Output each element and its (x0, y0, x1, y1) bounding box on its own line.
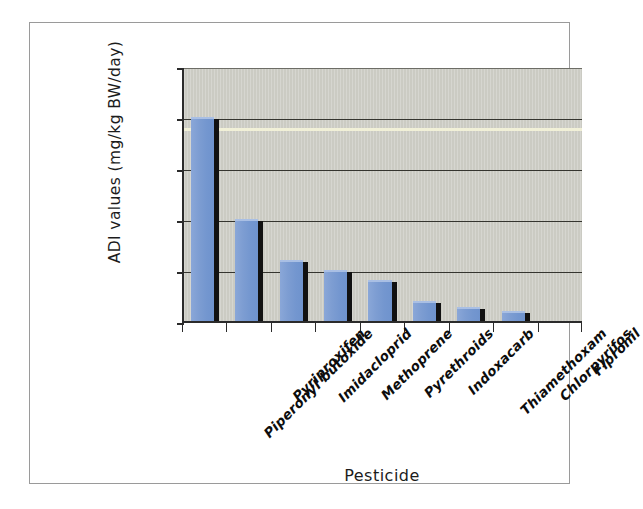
bar-group (235, 68, 258, 321)
y-axis-tick-mark (177, 221, 184, 223)
y-axis-tick-mark (177, 272, 184, 274)
bar-piperonyl-butoxide[interactable] (191, 117, 214, 321)
x-axis-category-label: Methoprene (378, 325, 456, 403)
bar-group (502, 68, 525, 321)
figure-frame: ADI values (mg/kg BW/day) 0.250.20.150.1… (29, 22, 570, 484)
x-axis-title: Pesticide (182, 466, 582, 485)
bar-top-highlight (235, 219, 258, 221)
bar-pyrethroids[interactable] (368, 280, 391, 321)
bar-top-highlight (191, 117, 214, 119)
bar-chlorpyrifos[interactable] (502, 311, 525, 321)
bar-group (368, 68, 391, 321)
bar-imidacloprid[interactable] (280, 260, 303, 321)
y-axis-tick-mark (177, 119, 184, 121)
bar-group (280, 68, 303, 321)
y-axis-tick-mark (177, 68, 184, 70)
bar-group (413, 68, 436, 321)
bar-top-highlight (368, 280, 391, 282)
bar-top-highlight (280, 260, 303, 262)
y-axis-tick-mark (177, 170, 184, 172)
bar-thiamethoxam[interactable] (457, 307, 480, 321)
bar-group (457, 68, 480, 321)
bar-group (546, 68, 569, 321)
plot-area: 0.250.20.150.10.050 (182, 68, 582, 323)
bar-top-highlight (324, 270, 347, 272)
bar-top-highlight (413, 301, 436, 303)
bar-pyriproxifen[interactable] (235, 219, 258, 321)
bar-top-highlight (457, 307, 480, 309)
bar-group (191, 68, 214, 321)
bar-methoprene[interactable] (324, 270, 347, 321)
bar-indoxacarb[interactable] (413, 301, 436, 321)
y-axis-title: ADI values (mg/kg BW/day) (106, 12, 124, 292)
bar-group (324, 68, 347, 321)
x-axis-category-labels: Piperonyl butoxidePyriproxifenImidaclopr… (182, 325, 582, 455)
bar-top-highlight (502, 311, 525, 313)
